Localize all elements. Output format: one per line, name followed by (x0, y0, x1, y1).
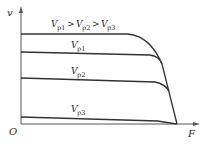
svg-text:p1: p1 (57, 24, 65, 32)
svg-text:p3: p3 (107, 24, 115, 32)
svg-text:>: > (67, 19, 75, 29)
label-vp3: V p3 (71, 104, 85, 117)
label-vp1: V p1 (71, 40, 85, 53)
x-axis-arrow-icon (193, 122, 200, 126)
relation-label: V p1 > V p2 > V p3 (51, 19, 115, 32)
svg-text:p2: p2 (82, 24, 90, 32)
velocity-force-diagram: v F O V p1 > V p2 > V p3 V p1 V p2 V p3 (0, 0, 224, 150)
x-axis-label: F (187, 128, 196, 139)
y-axis-arrow-icon (19, 6, 23, 13)
label-vp2: V p2 (71, 66, 85, 79)
svg-text:>: > (92, 19, 100, 29)
svg-text:p3: p3 (77, 109, 85, 117)
svg-text:p1: p1 (77, 45, 85, 53)
curve-vp2 (21, 78, 169, 91)
y-axis-label: v (7, 7, 13, 18)
svg-text:p2: p2 (77, 71, 85, 79)
origin-label: O (9, 126, 17, 137)
curve-vp1 (21, 52, 162, 64)
curve-vp3 (21, 117, 177, 124)
